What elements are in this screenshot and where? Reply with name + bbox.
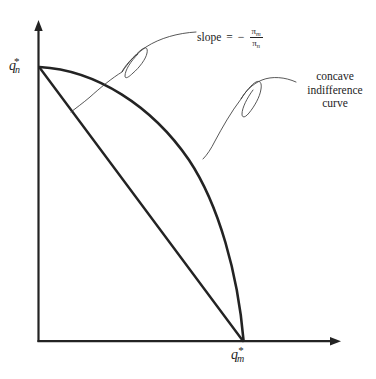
slope-fraction-numerator: πm: [250, 26, 263, 36]
y-axis-arrowhead: [34, 20, 42, 31]
curve-annotation-line-2: indifference: [297, 84, 373, 98]
x-axis-label-superscript: *: [238, 344, 244, 356]
concave-indifference-curve-annotation: concave indifference curve: [297, 70, 373, 111]
curve-annotation-line-3: curve: [297, 97, 373, 111]
x-axis: [38, 337, 342, 345]
numerator-subscript: m: [256, 30, 261, 37]
slope-leader-line: [71, 32, 196, 112]
slope-annotation-equals: =: [225, 32, 234, 44]
slope-annotation-fraction: πm πn: [250, 26, 263, 49]
x-axis-label: qm*: [231, 348, 251, 362]
denominator-subscript: n: [257, 42, 260, 49]
slope-fraction-denominator: πn: [250, 38, 262, 48]
slope-annotation-word: slope: [197, 32, 221, 44]
curve-leader-line: [203, 78, 296, 159]
slope-annotation-minus: −: [238, 31, 246, 43]
curve-annotation-line-1: concave: [297, 70, 373, 84]
y-axis-label: qn*: [9, 59, 27, 73]
slope-annotation: slope = − πm πn: [197, 26, 263, 49]
y-axis-label-superscript: *: [14, 55, 20, 67]
indifference-curve-figure: [0, 0, 376, 379]
x-axis-arrowhead: [330, 337, 341, 345]
